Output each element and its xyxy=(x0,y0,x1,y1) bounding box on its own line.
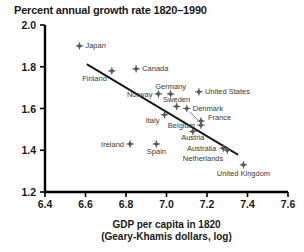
point-label: United States xyxy=(205,87,250,96)
point-label: Sweden xyxy=(163,95,190,104)
y-tick-label: 1.4 xyxy=(21,144,36,156)
data-point[interactable]: France xyxy=(197,113,231,125)
data-point[interactable]: United Kingdom xyxy=(217,161,270,178)
data-point[interactable]: Belgium xyxy=(168,121,205,130)
y-axis-ticks: 1.21.41.61.82.0 xyxy=(21,19,45,198)
chart-page: Percent annual growth rate 1820–1990 1.2… xyxy=(0,0,304,252)
x-axis-label-line1: GDP per capita in 1820 xyxy=(112,219,221,230)
y-tick-label: 1.8 xyxy=(21,61,36,73)
point-label: Australia xyxy=(187,144,217,153)
data-point[interactable]: United States xyxy=(195,87,250,96)
data-point[interactable]: Italy xyxy=(146,111,168,125)
x-tick-label: 6.4 xyxy=(38,198,53,210)
data-point[interactable]: Denmark xyxy=(183,104,223,113)
data-point[interactable]: Spain xyxy=(147,140,166,156)
y-tick-label: 1.2 xyxy=(21,186,36,198)
x-tick-label: 7.0 xyxy=(159,198,174,210)
scatter-plot: 1.21.41.61.82.0 6.46.66.87.07.27.47.6 Ja… xyxy=(0,0,304,252)
x-axis-ticks: 6.46.66.87.07.27.47.6 xyxy=(38,192,296,210)
point-label: United Kingdom xyxy=(217,169,270,178)
point-label: Austria xyxy=(181,133,205,142)
point-label: Finland xyxy=(82,74,107,83)
x-tick-label: 6.8 xyxy=(119,198,134,210)
point-label: France xyxy=(208,113,231,122)
point-label: Norway xyxy=(127,90,153,99)
x-tick-label: 7.2 xyxy=(200,198,215,210)
x-axis-caption: GDP per capita in 1820(Geary-Khamis doll… xyxy=(101,219,232,242)
x-tick-label: 7.6 xyxy=(281,198,296,210)
x-tick-label: 6.6 xyxy=(78,198,93,210)
x-tick-label: 7.4 xyxy=(240,198,255,210)
point-label: Japan xyxy=(85,41,105,50)
axes xyxy=(44,25,288,192)
point-label: Germany xyxy=(155,82,186,91)
data-point[interactable]: Norway xyxy=(127,90,162,99)
data-point[interactable]: Ireland xyxy=(101,140,134,149)
point-label: Netherlands xyxy=(183,154,224,163)
point-label: Italy xyxy=(146,116,160,125)
point-label: Denmark xyxy=(193,104,224,113)
data-point[interactable]: Canada xyxy=(132,64,169,73)
data-point[interactable]: Finland xyxy=(82,67,115,83)
y-tick-label: 2.0 xyxy=(21,19,36,31)
point-label: Canada xyxy=(142,64,169,73)
x-axis-label-line2: (Geary-Khamis dollars, log) xyxy=(101,231,232,242)
point-label: Spain xyxy=(147,147,166,156)
y-tick-label: 1.6 xyxy=(21,103,36,115)
data-point[interactable]: Japan xyxy=(76,41,106,50)
point-label: Ireland xyxy=(101,140,124,149)
point-label: Belgium xyxy=(168,121,195,130)
data-points: JapanFinlandCanadaNorwayGermanyUnited St… xyxy=(76,41,270,177)
